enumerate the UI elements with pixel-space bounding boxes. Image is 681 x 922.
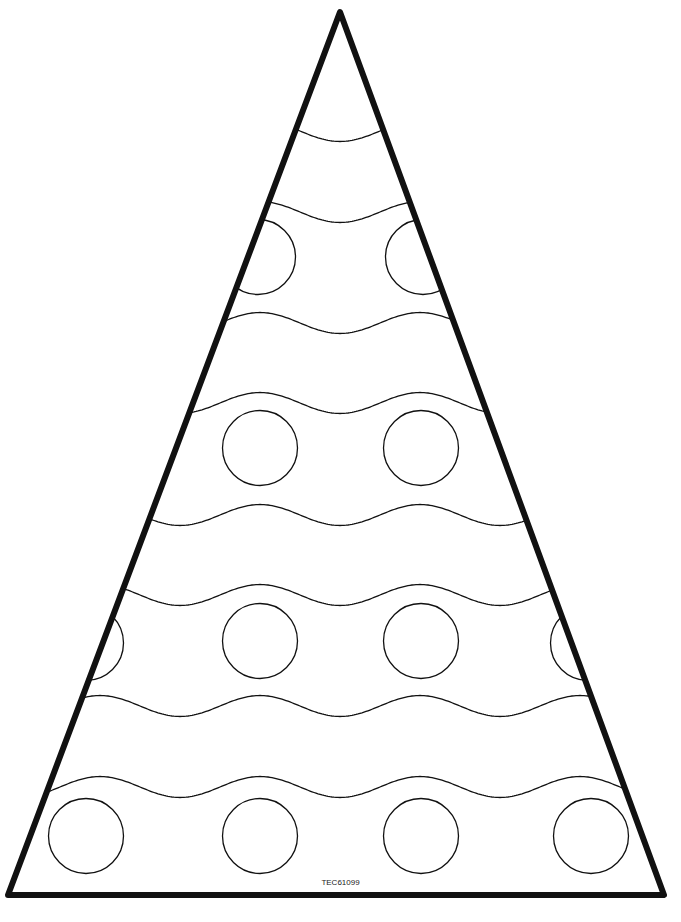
wave-garland-line [0,313,680,334]
ornament-circle [384,799,459,874]
ornament-circle [384,604,459,679]
ornament-circle [554,799,629,874]
ornament-circle [223,799,298,874]
tree-triangle-outline [8,12,664,895]
tree-decorations [0,121,680,874]
christmas-tree-worksheet [0,0,681,922]
wave-garland-line [0,696,680,717]
ornament-circle [49,799,124,874]
ornament-circle [384,411,459,486]
wave-garland-line [0,777,680,798]
ornament-circle [223,411,298,486]
product-code-label: TEC61099 [0,878,681,887]
ornament-circle [223,604,298,679]
wave-garland-line [0,585,680,606]
wave-garland-line [0,393,680,414]
wave-garland-line [0,202,680,223]
wave-garland-line [0,121,680,142]
wave-garland-line [0,505,680,526]
